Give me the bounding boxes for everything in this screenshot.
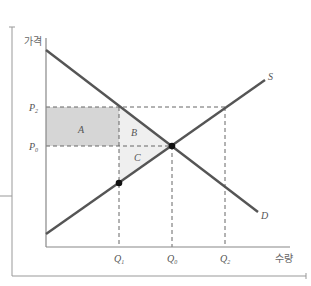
price-label-p0: P0 xyxy=(28,141,38,153)
region-b-label: B xyxy=(131,127,137,138)
y-axis-label: 가격 xyxy=(24,35,42,47)
supply-point-q1 xyxy=(116,180,123,187)
price-label-p2: P2 xyxy=(28,102,38,114)
supply-demand-diagram: 가격 수량 S D P2 P0 Q1 Q0 Q2 A B C xyxy=(0,0,311,286)
x-axis-label: 수량 xyxy=(275,253,293,264)
demand-label: D xyxy=(260,210,269,221)
equilibrium-point xyxy=(169,143,176,150)
quantity-label-q0: Q0 xyxy=(167,253,177,265)
region-c-label: C xyxy=(134,152,141,163)
supply-curve xyxy=(46,80,265,234)
region-a-label: A xyxy=(77,124,85,135)
supply-label: S xyxy=(268,71,273,82)
quantity-label-q1: Q1 xyxy=(114,253,124,265)
quantity-label-q2: Q2 xyxy=(220,253,230,265)
